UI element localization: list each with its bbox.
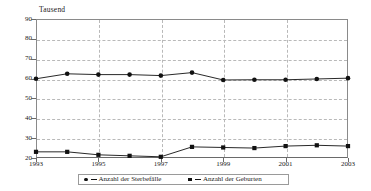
x-axis-tick-label: 1997 [141, 161, 181, 168]
y-axis-tick-mark [31, 138, 36, 139]
y-axis-tick-label: 40 [8, 115, 32, 122]
gridline-vertical [99, 20, 100, 157]
y-axis-tick-mark [31, 19, 36, 20]
x-axis-tick-label: 2003 [328, 161, 368, 168]
legend-label-geburten: Anzahl der Geburten [203, 176, 262, 183]
x-axis-tick-mark [36, 158, 37, 162]
square-marker-icon [188, 178, 192, 182]
gridline-horizontal [37, 60, 347, 61]
chart-legend: Anzahl der Sterbefälle Anzahl der Geburt… [78, 174, 289, 185]
circle-marker-icon [84, 178, 88, 182]
y-axis-unit-label: Tausend [39, 5, 65, 14]
gridline-horizontal [37, 119, 347, 120]
legend-item-sterbefaelle: Anzahl der Sterbefälle [84, 175, 161, 184]
x-axis-tick-label: 1995 [78, 161, 118, 168]
legend-line-icon [195, 179, 201, 180]
gridline-vertical [287, 20, 288, 157]
y-axis-tick-mark [31, 98, 36, 99]
x-axis-tick-label: 2001 [266, 161, 306, 168]
x-axis-tick-label: 1993 [16, 161, 56, 168]
gridline-vertical [224, 20, 225, 157]
x-axis-tick-mark [348, 158, 349, 162]
plot-area [36, 19, 348, 158]
legend-line-icon [91, 179, 97, 180]
line-chart: Tausend 2030405060708090 199319951997199… [0, 0, 371, 191]
y-axis-tick-label: 50 [8, 95, 32, 102]
y-axis-tick-mark [31, 79, 36, 80]
gridline-horizontal [37, 139, 347, 140]
x-axis-tick-mark [161, 158, 162, 162]
y-axis-tick-label: 90 [8, 16, 32, 23]
y-axis-tick-label: 30 [8, 135, 32, 142]
x-axis-tick-label: 1999 [203, 161, 243, 168]
x-axis-tick-mark [286, 158, 287, 162]
y-axis-tick-label: 60 [8, 75, 32, 82]
gridline-vertical [162, 20, 163, 157]
y-axis-tick-mark [31, 39, 36, 40]
x-axis-tick-mark [223, 158, 224, 162]
y-axis-tick-mark [31, 59, 36, 60]
legend-item-geburten: Anzahl der Geburten [188, 175, 261, 184]
gridline-horizontal [37, 80, 347, 81]
gridline-horizontal [37, 99, 347, 100]
legend-label-sterbefaelle: Anzahl der Sterbefälle [99, 176, 162, 183]
y-axis-tick-label: 70 [8, 55, 32, 62]
y-axis-tick-label: 80 [8, 35, 32, 42]
x-axis-tick-mark [98, 158, 99, 162]
y-axis-tick-mark [31, 118, 36, 119]
gridline-horizontal [37, 40, 347, 41]
